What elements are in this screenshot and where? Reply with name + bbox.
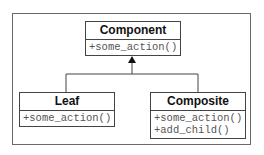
class-leaf: Leaf +some_action() [19, 92, 115, 127]
generalization-arrow-icon [128, 56, 136, 63]
operation: +some_action() [23, 112, 114, 124]
class-composite: Composite +some_action() +add_child() [150, 92, 246, 139]
operation: +some_action() [154, 112, 245, 124]
class-component: Component +some_action() [85, 21, 181, 56]
operations-compartment: +some_action() [20, 111, 114, 124]
class-name: Leaf [20, 93, 114, 111]
operation: +some_action() [89, 41, 180, 53]
operations-compartment: +some_action() +add_child() [151, 111, 245, 136]
class-name: Composite [151, 93, 245, 111]
operation: +add_child() [154, 124, 245, 136]
class-name: Component [86, 22, 180, 40]
operations-compartment: +some_action() [86, 40, 180, 53]
